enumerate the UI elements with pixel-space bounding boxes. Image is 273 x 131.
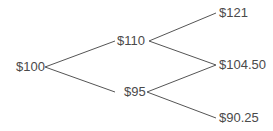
edge-down-downdown xyxy=(147,92,216,118)
edge-root-up xyxy=(45,41,115,67)
binomial-tree-diagram: $100 $110 $95 $121 $104.50 $90.25 xyxy=(0,0,273,131)
node-down: $95 xyxy=(124,85,146,99)
edge-up-updown xyxy=(149,41,216,65)
edge-up-upup xyxy=(149,13,216,41)
edge-root-down xyxy=(45,67,115,92)
node-up-up: $121 xyxy=(219,6,248,20)
edge-down-updown xyxy=(147,65,216,92)
node-down-down: $90.25 xyxy=(219,111,259,125)
node-root: $100 xyxy=(16,60,45,74)
node-up: $110 xyxy=(117,34,145,48)
node-up-down: $104.50 xyxy=(219,58,266,72)
